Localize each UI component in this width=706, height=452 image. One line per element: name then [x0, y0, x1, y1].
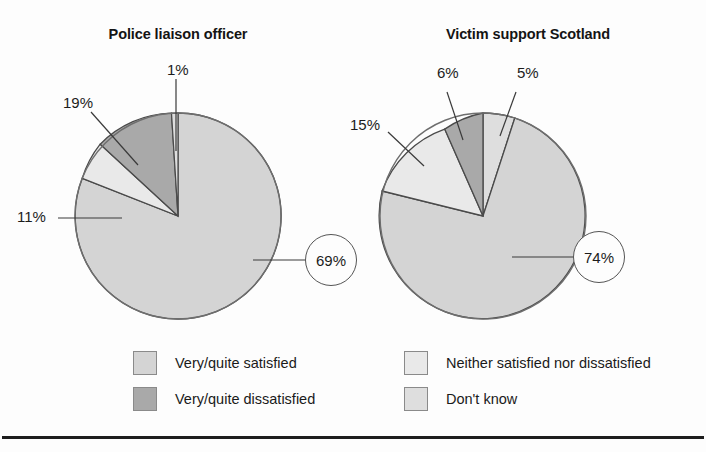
bottom-divider-rule — [2, 436, 704, 439]
legend-swatch-very-quite-dissatisfied — [133, 387, 157, 411]
pie2-label-15pct: 15% — [350, 116, 380, 133]
pie-chart-victim-support-scotland — [379, 113, 586, 319]
legend-item-neither-satisfied-nor-dissatisfied: Neither satisfied nor dissatisfied — [404, 345, 651, 381]
legend-label-neither-satisfied-nor-dissatisfied: Neither satisfied nor dissatisfied — [446, 355, 651, 371]
pie1-label-19pct: 19% — [63, 94, 93, 111]
pie2-label-6pct: 6% — [437, 64, 459, 81]
legend-swatch-neither-satisfied-nor-dissatisfied — [404, 351, 428, 375]
pie-chart-police-liaison-officer — [75, 113, 281, 319]
pie1-label-11pct: 11% — [17, 208, 46, 225]
legend-item-very-quite-dissatisfied: Very/quite dissatisfied — [133, 381, 315, 417]
legend-left: Very/quite satisfied Very/quite dissatis… — [133, 345, 315, 417]
legend-label-very-quite-dissatisfied: Very/quite dissatisfied — [175, 391, 315, 407]
legend-swatch-very-quite-satisfied — [133, 351, 157, 375]
pie1-label-1pct: 1% — [167, 61, 189, 78]
legend-label-dont-know: Don't know — [446, 391, 517, 407]
figure-canvas: Police liaison officer Victim support Sc… — [0, 0, 706, 452]
pie2-label-74pct: 74% — [573, 231, 625, 283]
legend-right: Neither satisfied nor dissatisfied Don't… — [404, 345, 651, 417]
legend-item-very-quite-satisfied: Very/quite satisfied — [133, 345, 315, 381]
legend-item-dont-know: Don't know — [404, 381, 651, 417]
legend-swatch-dont-know — [404, 387, 428, 411]
pie2-label-5pct: 5% — [517, 64, 539, 81]
legend-label-very-quite-satisfied: Very/quite satisfied — [175, 355, 297, 371]
pie1-label-69pct: 69% — [305, 234, 357, 286]
